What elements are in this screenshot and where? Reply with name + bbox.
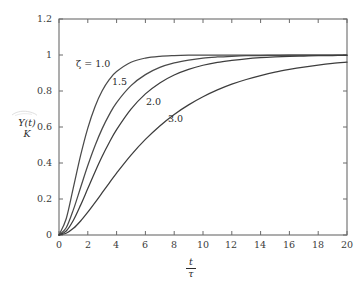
ytick-label-0-2: 0.2: [20, 193, 52, 204]
x-axis-title-numerator: t: [186, 257, 195, 269]
xtick-label-2: 2: [76, 239, 100, 250]
x-axis-title: t τ: [176, 257, 206, 279]
xtick-label-0: 0: [47, 239, 71, 250]
plot-frame: [59, 19, 347, 235]
ytick-label-0-8: 0.8: [20, 85, 52, 96]
xtick-label-10: 10: [191, 239, 215, 250]
ytick-label-0-4: 0.4: [20, 157, 52, 168]
curve-label-zeta-3-0: 3.0: [168, 113, 183, 124]
ytick-label-1-2: 1.2: [20, 13, 52, 24]
curve-label-zeta-1-5: 1.5: [112, 76, 127, 87]
y-axis-title-denominator: K: [16, 129, 38, 140]
ytick-label-1: 1: [20, 49, 52, 60]
xtick-label-16: 16: [277, 239, 301, 250]
x-axis-title-denominator: τ: [186, 269, 195, 280]
xtick-label-20: 20: [335, 239, 359, 250]
curve-label-zeta-1-0: ζ = 1.0: [76, 58, 110, 69]
figure-container: 1.2 1 0.8 0.6 0.4 0.2 0 0 2 4 6 8 10 12 …: [0, 0, 361, 287]
y-axis-title: Y(t) K: [4, 118, 50, 139]
xtick-label-14: 14: [248, 239, 272, 250]
xtick-label-8: 8: [162, 239, 186, 250]
xtick-label-18: 18: [306, 239, 330, 250]
xtick-label-4: 4: [104, 239, 128, 250]
xtick-label-12: 12: [219, 239, 243, 250]
curve-label-zeta-2-0: 2.0: [146, 96, 161, 107]
xtick-label-6: 6: [133, 239, 157, 250]
